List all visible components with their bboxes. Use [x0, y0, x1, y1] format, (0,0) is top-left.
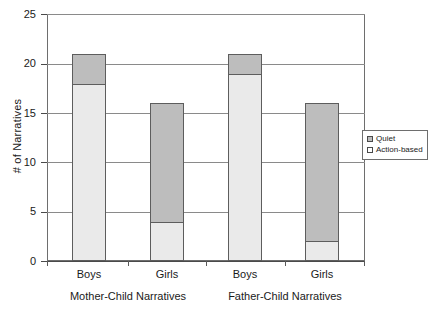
legend-swatch-icon: [367, 136, 373, 142]
x-tick-mark-4: [364, 261, 365, 266]
x-label-father-boys: Boys: [205, 268, 285, 281]
bar-mother-boys: [72, 54, 106, 261]
x-tick-mark-2: [206, 261, 207, 266]
stacked-bar-chart: 25 20 15 10 5 0 # of Narratives Boys Gir…: [0, 0, 432, 321]
y-tick-label-5: 5: [6, 206, 36, 217]
bar-mother-girls: [150, 103, 184, 261]
bar-segment-action-based: [72, 84, 106, 261]
y-axis-title: # of Narratives: [11, 66, 23, 206]
gridline-25: [47, 14, 365, 15]
x-label-father-girls: Girls: [282, 268, 362, 281]
y-tick-label-0: 0: [6, 256, 36, 267]
chart-legend: Quiet Action-based: [362, 130, 428, 160]
y-tick-label-25: 25: [6, 9, 36, 20]
bar-segment-action-based: [305, 241, 339, 261]
y-tick-mark-25: [41, 14, 47, 15]
bar-segment-quiet: [228, 54, 262, 74]
bar-segment-action-based: [228, 74, 262, 261]
bar-father-boys: [228, 54, 262, 261]
y-tick-mark-20: [41, 64, 47, 65]
x-tick-mark-1: [128, 261, 129, 266]
y-tick-mark-15: [41, 113, 47, 114]
bar-segment-action-based: [150, 222, 184, 261]
x-tick-mark-0: [47, 261, 48, 266]
x-label-mother-girls: Girls: [127, 268, 207, 281]
bar-segment-quiet: [72, 54, 106, 84]
x-label-mother-boys: Boys: [49, 268, 129, 281]
y-tick-mark-5: [41, 212, 47, 213]
legend-item-quiet: Quiet: [367, 134, 424, 144]
legend-item-action-based: Action-based: [367, 145, 424, 155]
bar-father-girls: [305, 103, 339, 261]
y-tick-mark-10: [41, 162, 47, 163]
legend-swatch-icon: [367, 147, 373, 153]
bar-segment-quiet: [150, 103, 184, 222]
x-tick-mark-3: [285, 261, 286, 266]
bar-segment-quiet: [305, 103, 339, 241]
legend-label-action-based: Action-based: [376, 145, 423, 155]
legend-label-quiet: Quiet: [376, 134, 395, 144]
x-group-label-father: Father-Child Narratives: [185, 290, 385, 303]
